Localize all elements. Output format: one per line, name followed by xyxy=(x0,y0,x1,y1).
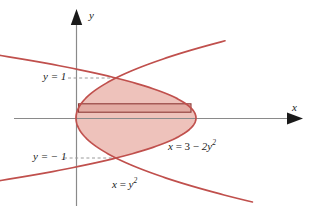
curve2-label-eq: = xyxy=(117,178,129,190)
curve-label-term: 2y xyxy=(202,140,212,152)
curve-label-eq: = xyxy=(173,140,185,152)
representative-strip xyxy=(79,104,192,112)
curve2-label-exponent: 2 xyxy=(134,176,138,185)
curve-label-right-parabola: x = 3 − 2y2 xyxy=(168,138,216,152)
y-axis-arrow-icon xyxy=(71,9,82,25)
y-axis-label: y xyxy=(89,9,94,21)
x-axis-label: x xyxy=(292,101,297,113)
curve-label-minus: − xyxy=(193,140,202,152)
curve-label-left-parabola: x = y2 xyxy=(112,176,137,190)
x-axis-arrow-icon xyxy=(287,113,303,125)
gridline-label-lower: y = − 1 xyxy=(33,150,66,162)
strip-rectangle xyxy=(79,104,192,112)
gridline-label-upper: y = 1 xyxy=(43,70,66,82)
figure-canvas: y x y = 1 y = − 1 x = 3 − 2y2 x = y2 xyxy=(0,0,318,224)
plot-svg xyxy=(0,0,318,224)
curve-label-const: 3 xyxy=(185,140,193,152)
curve-label-exponent: 2 xyxy=(212,138,216,147)
